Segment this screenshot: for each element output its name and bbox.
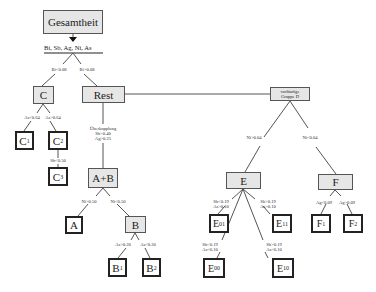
node-f1: F1 [311,214,331,233]
node-f: F [318,174,353,190]
node-e10-sub: 10 [283,265,289,271]
node-f2: F2 [343,214,363,233]
node-b1: B1 [108,258,127,277]
node-gesamtheit: Gesamtheit [43,10,103,34]
node-b2: B2 [142,258,161,277]
node-a: A [65,216,83,234]
node-c2-sub: 2 [60,138,63,144]
node-c1-sub: 1 [27,138,30,144]
node-rest-label: Rest [94,89,114,101]
edge-label-c-c2: As>0.64 [45,115,61,120]
node-f-label: F [332,176,338,188]
node-e00-sub: 00 [214,265,220,271]
node-a-plus-b-label: A+B [92,172,113,184]
node-c2-main: C [53,135,60,147]
node-b1-sub: 1 [120,265,123,271]
edge-label-root-c: Bi<0.08 [52,67,67,72]
node-e00: E00 [203,258,225,278]
edge-label-rest-ab: Überkopplung Sb>0.40 Ag>0.25 [90,126,117,141]
edge-label-d-f: Ni<0.04 [302,135,317,140]
node-e: E [226,172,261,189]
node-c1: C1 [15,131,34,150]
node-a-plus-b: A+B [88,168,118,188]
node-c2: C2 [48,131,68,150]
node-e11: E11 [272,214,292,233]
node-c-label: C [40,89,47,101]
edge-label-e-e11: Sb>0.19 As>0.10 [260,199,276,209]
node-d-line2: Gruppe D [281,94,299,99]
node-gesamtheit-label: Gesamtheit [48,16,98,28]
edge-label-ab-a: Ni>0.50 [81,199,96,204]
edge-label-root-rest: Bi>0.08 [80,67,95,72]
edge-label-ab-b: Ni<0.50 [110,199,125,204]
node-e11-sub: 11 [282,221,288,227]
node-c3-sub: 3 [60,174,63,180]
edge-label-b-b1: As>0.20 [115,242,131,247]
edge-label-e-e01-line2: As>0.10 [213,204,229,209]
edge-label-e-e10: Sb>0.19 As<0.10 [266,242,282,252]
edge-label-b-b2: As<0.20 [140,242,156,247]
node-b2-main: B [146,262,153,274]
edge-label-f-f2: Ag>0.09 [339,200,355,205]
node-f1-sub: 1 [322,221,325,227]
node-b1-main: B [112,262,119,274]
node-e-label: E [240,175,247,187]
node-c3: C3 [48,167,68,186]
node-c3-main: C [53,171,60,183]
edge-label-e-e01: Sb<0.19 As>0.10 [213,199,229,209]
node-e10: E10 [272,258,294,278]
root-variables: Bi, Sb, Ag, Ni, As [44,44,92,51]
edge-label-f-f1: Ag<0.09 [316,200,332,205]
node-b-label: B [132,219,139,231]
decision-tree-diagram: Gesamtheit Bi, Sb, Ag, Ni, As Bi<0.08 Bi… [0,0,376,292]
node-e01: E01 [209,214,229,233]
node-e01-sub: 01 [219,221,225,227]
node-vorlaeufige-gruppe-d: vorläufige Gruppe D [270,87,310,101]
edge-label-c2-c3: Sb<0.50 [50,158,65,163]
node-f2-sub: 2 [354,221,357,227]
edge-label-e-e00: Sb<0.19 As<0.10 [202,242,218,252]
node-c1-main: C [19,135,26,147]
edge-label-d-e: Ni>0.04 [246,135,261,140]
node-b: B [125,216,146,233]
edge-label-rest-ab-line3: Ag>0.25 [90,136,117,141]
node-b2-sub: 2 [154,265,157,271]
node-c: C [33,86,54,104]
edge-label-c-c1: As<0.64 [24,115,40,120]
edge-label-e-e11-line2: As>0.10 [260,204,276,209]
node-rest: Rest [82,86,125,103]
edge-label-e-e00-line2: As<0.10 [202,247,218,252]
node-a-label: A [70,219,78,231]
edge-label-e-e10-line2: As<0.10 [266,247,282,252]
